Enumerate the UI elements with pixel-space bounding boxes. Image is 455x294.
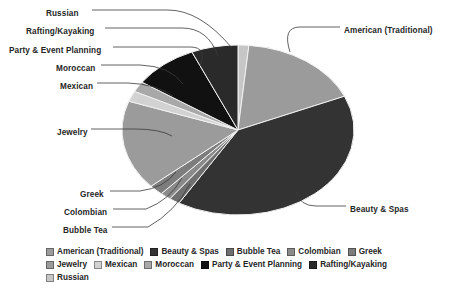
legend-swatch-icon: [46, 274, 54, 282]
leader-greek: [110, 172, 176, 191]
callout-label-bubble-tea: Bubble Tea: [63, 226, 108, 236]
legend-item[interactable]: Mexican: [94, 259, 137, 270]
legend-item[interactable]: Bubble Tea: [226, 246, 281, 257]
callout-label-jewelry: Jewelry: [57, 128, 88, 138]
legend-label: Mexican: [105, 260, 137, 269]
legend-item[interactable]: Russian: [46, 272, 89, 283]
legend-item[interactable]: Party & Event Planning: [201, 259, 302, 270]
legend-swatch-icon: [150, 248, 158, 256]
legend-swatch-icon: [46, 248, 54, 256]
leader-bubble-tea: [112, 184, 190, 227]
legend-label: Bubble Tea: [237, 247, 281, 256]
leader-jewelry: [91, 129, 172, 136]
pie-chart-figure: RussianRafting/KayakingParty & Event Pla…: [0, 0, 455, 294]
legend-swatch-icon: [144, 261, 152, 269]
callout-label-russian: Russian: [46, 9, 79, 19]
callout-label-party-event-planning: Party & Event Planning: [9, 46, 101, 56]
leader-mexican: [97, 83, 173, 96]
leader-beauty-spas: [296, 192, 346, 206]
legend-label: Russian: [57, 273, 89, 282]
callout-label-colombian: Colombian: [64, 208, 107, 218]
legend-swatch-icon: [46, 261, 54, 269]
legend-label: Party & Event Planning: [212, 260, 302, 269]
leader-colombian: [113, 178, 182, 209]
legend-item[interactable]: Moroccan: [144, 259, 194, 270]
legend-item[interactable]: Beauty & Spas: [150, 246, 218, 257]
legend-item[interactable]: Jewelry: [46, 259, 87, 270]
legend-item[interactable]: Greek: [348, 246, 382, 257]
legend-label: Rafting/Kayaking: [320, 260, 387, 269]
leader-rafting-kayaking: [105, 28, 218, 56]
legend-label: Jewelry: [57, 260, 87, 269]
legend-label: Greek: [359, 247, 382, 256]
legend-swatch-icon: [309, 261, 317, 269]
callout-label-mexican: Mexican: [60, 82, 93, 92]
legend-swatch-icon: [94, 261, 102, 269]
legend-label: American (Traditional): [57, 247, 143, 256]
callout-label-american-traditional: American (Traditional): [344, 26, 433, 36]
legend-item[interactable]: American (Traditional): [46, 246, 143, 257]
leader-moroccan: [101, 65, 183, 84]
callout-label-rafting-kayaking: Rafting/Kayaking: [26, 27, 94, 37]
legend: American (Traditional)Beauty & SpasBubbl…: [46, 246, 418, 285]
legend-swatch-icon: [201, 261, 209, 269]
callout-label-greek: Greek: [80, 190, 104, 200]
legend-swatch-icon: [287, 248, 295, 256]
legend-label: Colombian: [298, 247, 340, 256]
leader-party-event-planning: [113, 47, 202, 66]
callout-label-moroccan: Moroccan: [56, 64, 95, 74]
leader-american-traditional: [288, 27, 340, 52]
callout-label-beauty-spas: Beauty & Spas: [350, 205, 409, 215]
legend-label: Beauty & Spas: [161, 247, 218, 256]
legend-label: Moroccan: [155, 260, 194, 269]
legend-swatch-icon: [348, 248, 356, 256]
legend-item[interactable]: Rafting/Kayaking: [309, 259, 387, 270]
legend-item[interactable]: Colombian: [287, 246, 340, 257]
legend-swatch-icon: [226, 248, 234, 256]
